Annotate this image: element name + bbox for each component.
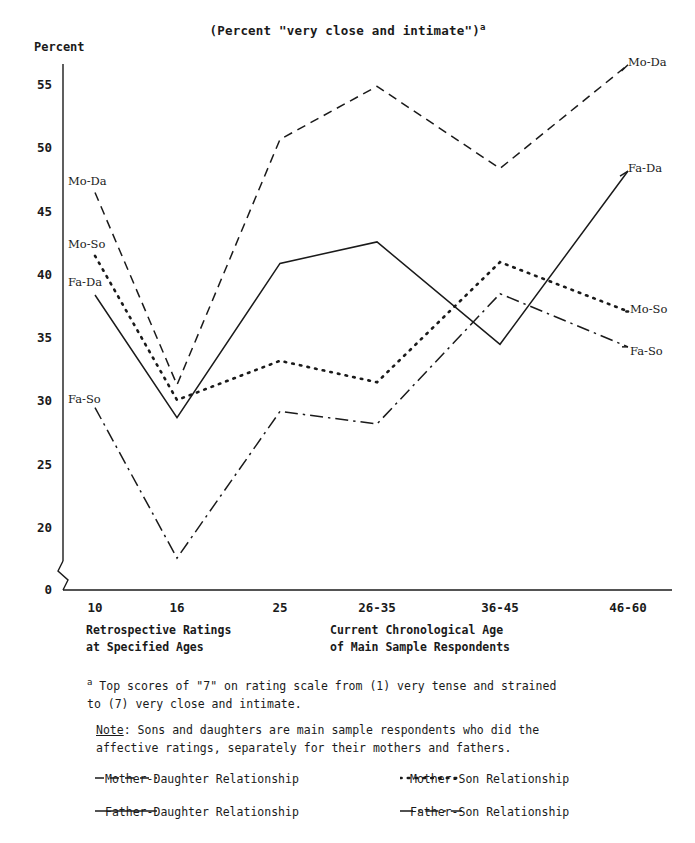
series-label-left-mo-so: Mo-So: [68, 237, 105, 251]
legend-swatch-dashed: [95, 772, 157, 784]
legend-item-father-daughter-relationship: Father-Daughter Relationship: [95, 805, 299, 819]
y-axis-tick-55: 55: [18, 77, 52, 92]
y-axis-tick-50: 50: [18, 140, 52, 155]
series-label-right-fa-da: Fa-Da: [628, 161, 662, 175]
series-label-left-fa-da: Fa-Da: [68, 275, 102, 289]
y-axis-tick-30: 30: [18, 393, 52, 408]
series-label-right-mo-da: Mo-Da: [628, 55, 667, 69]
series-line-fa-da: [95, 171, 628, 418]
note-label: Note: [96, 723, 124, 737]
legend-item-mother-son-relationship: Mother-Son Relationship: [400, 772, 569, 786]
legend-swatch-dashdot: [400, 805, 462, 817]
series-label-left-fa-so: Fa-So: [68, 392, 101, 406]
x-axis-tick-36-45: 36-45: [455, 600, 545, 615]
x-axis-tick-26-35: 26-35: [332, 600, 422, 615]
legend-swatch-solid: [95, 805, 157, 817]
footnote-text: Top scores of "7" on rating scale from (…: [87, 679, 556, 711]
y-axis-tick-0: 0: [18, 582, 52, 597]
x-axis-tick-16: 16: [132, 600, 222, 615]
series-label-right-mo-so: Mo-So: [630, 302, 667, 316]
legend-item-father-son-relationship: Father-Son Relationship: [400, 805, 569, 819]
series-label-right-fa-so: Fa-So: [630, 344, 663, 358]
y-axis-tick-45: 45: [18, 204, 52, 219]
series-label-left-mo-da: Mo-Da: [68, 174, 107, 188]
y-axis-tick-20: 20: [18, 520, 52, 535]
y-axis-break-icon: [58, 561, 68, 590]
x-axis-tick-46-60: 46-60: [583, 600, 673, 615]
legend-item-mother-daughter-relationship: Mother-Daughter Relationship: [95, 772, 299, 786]
series-line-mo-da: [95, 65, 628, 385]
x-axis-caption-right: Current Chronological Age of Main Sample…: [330, 622, 510, 656]
x-axis-caption-left: Retrospective Ratings at Specified Ages: [86, 622, 231, 656]
footnote-marker: a: [87, 677, 92, 687]
figure-root: (Percent "very close and intimate")a Per…: [0, 0, 695, 843]
series-line-fa-so: [95, 294, 628, 558]
y-axis-tick-25: 25: [18, 457, 52, 472]
note-text: : Sons and daughters are main sample res…: [96, 723, 539, 755]
x-axis-tick-10: 10: [50, 600, 140, 615]
legend-swatch-dotted: [400, 772, 462, 784]
note: Note: Sons and daughters are main sample…: [96, 721, 656, 757]
x-axis-tick-25: 25: [235, 600, 325, 615]
y-axis-tick-35: 35: [18, 330, 52, 345]
plot-area: [0, 0, 695, 843]
y-axis-tick-40: 40: [18, 267, 52, 282]
footnote: a Top scores of "7" on rating scale from…: [87, 673, 647, 713]
